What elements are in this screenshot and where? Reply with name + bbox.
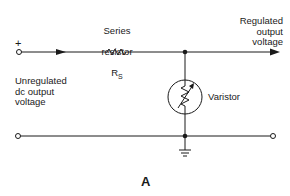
junction-dot-top — [183, 50, 188, 55]
plus-label: + — [15, 38, 21, 49]
junction-dot-bottom — [183, 134, 188, 139]
series-label-line1: Series — [92, 26, 142, 37]
current-arrow-icon — [56, 49, 66, 55]
rs-subscript: S — [118, 72, 123, 79]
figure-label: A — [141, 177, 150, 188]
output-voltage-label: Regulated output voltage — [225, 16, 283, 48]
series-resistor-label: Series resistor RS — [92, 15, 142, 92]
series-label-line2: resistor — [92, 47, 142, 58]
input-voltage-label: Unregulated dc output voltage — [15, 76, 67, 108]
varistor-arrow-shaft — [178, 85, 193, 108]
output-arrow-icon — [270, 49, 280, 56]
output-negative-terminal — [271, 134, 276, 139]
input-positive-terminal — [17, 50, 22, 55]
varistor-label: Varistor — [208, 92, 240, 103]
input-negative-terminal — [16, 134, 21, 139]
rs-label: RS — [92, 68, 142, 82]
